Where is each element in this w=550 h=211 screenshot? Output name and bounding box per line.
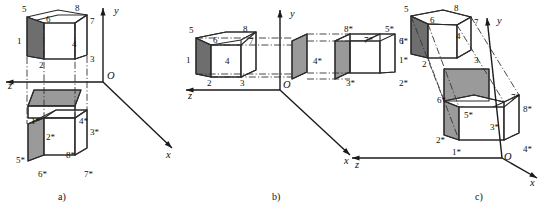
panels-root: yzxO568714231*4*2*3*5*8*6*7*a)yzxO568714… xyxy=(6,3,537,203)
vertex-label-3: 3 xyxy=(90,54,95,64)
origin-label: O xyxy=(107,70,115,81)
panel-caption-a: a) xyxy=(58,191,66,203)
vertex-label-3-star: 3* xyxy=(346,78,356,88)
vertex-label-7: 7 xyxy=(249,36,254,46)
vertex-label-5: 5 xyxy=(22,4,27,14)
vertex-label-3-star: 3* xyxy=(490,122,500,132)
vertex-label-2: 2 xyxy=(422,59,427,69)
vertex-label-6-star: 6* xyxy=(38,169,48,179)
vertex-label-7: 7 xyxy=(474,17,479,27)
axis-label-y: y xyxy=(496,15,502,26)
vertex-label-1: 1 xyxy=(186,55,191,65)
panel-a: yzxO568714231*4*2*3*5*8*6*7*a) xyxy=(6,3,172,203)
axis-label-y: y xyxy=(113,5,119,16)
vertex-label-8-star: 8* xyxy=(344,24,354,34)
vertex-label-1-star: 1* xyxy=(31,116,41,126)
axis-label-x: x xyxy=(529,177,535,188)
axis-x xyxy=(280,90,350,155)
vertex-label-4: 4 xyxy=(456,31,461,41)
vertex-label-8-star: 8* xyxy=(66,150,76,160)
panel-c: yzxO568714236*7*5*8*3*2*1*4*c) xyxy=(352,3,537,203)
vertex-label-2: 2 xyxy=(207,78,212,88)
vertex-label-4-star: 4* xyxy=(79,116,89,126)
origin-label: O xyxy=(283,79,291,90)
vertex-label-1: 1 xyxy=(400,36,405,46)
axis-arrow-y xyxy=(277,10,282,18)
vertex-label-4: 4 xyxy=(225,56,230,66)
vertex-label-6: 6 xyxy=(46,14,51,24)
vertex-label-3: 3 xyxy=(240,78,245,88)
front-face-box-star xyxy=(350,41,380,73)
figure-canvas: yzxO568714231*4*2*3*5*8*6*7*a)yzxO568714… xyxy=(0,0,550,211)
front-face-box xyxy=(428,24,457,58)
vertex-label-3-star: 3* xyxy=(90,127,100,137)
vertex-label-4: 4 xyxy=(72,39,77,49)
vertex-label-5: 5 xyxy=(404,4,409,14)
vertex-label-3: 3 xyxy=(474,55,479,65)
vertex-label-7: 7 xyxy=(90,16,95,26)
vertex-label-6: 6 xyxy=(213,35,218,45)
mirror-plane-face xyxy=(28,90,81,106)
axis-label-z: z xyxy=(187,90,192,101)
vertex-label-7-star: 7* xyxy=(84,169,94,179)
origin-label: O xyxy=(504,151,512,162)
axis-x xyxy=(103,82,172,148)
axis-label-y: y xyxy=(289,8,295,19)
front-face-upper-box xyxy=(44,23,75,59)
mirror-plane-strip xyxy=(292,34,307,79)
axis-label-z: z xyxy=(7,80,12,91)
vertex-label-8: 8 xyxy=(243,24,248,34)
vertex-label-5: 5 xyxy=(189,25,194,35)
axis-arrow-y xyxy=(100,8,105,16)
vertex-label-1-star: 1* xyxy=(452,147,462,157)
vertex-label-2-star: 2* xyxy=(46,132,56,142)
vertex-label-8: 8 xyxy=(454,3,459,13)
vertex-label-2: 2 xyxy=(39,60,44,70)
vertex-label-4-star: 4* xyxy=(313,56,323,66)
vertex-label-8: 8 xyxy=(75,3,80,13)
vertex-label-7-star: 7* xyxy=(511,92,521,102)
vertex-label-1-star: 1* xyxy=(399,55,409,65)
vertex-label-1: 1 xyxy=(17,36,22,46)
vertex-label-2-star: 2* xyxy=(436,135,446,145)
panel-caption-b: b) xyxy=(272,191,280,203)
vertex-label-5-star: 5* xyxy=(464,110,474,120)
axis-label-x: x xyxy=(343,155,349,166)
axis-label-x: x xyxy=(165,149,171,160)
vertex-label-7-star: 7* xyxy=(364,35,374,45)
vertex-label-4-star: 4* xyxy=(523,144,533,154)
vertex-label-6: 6 xyxy=(430,15,435,25)
panel-b: yzxO568714234*8*7*5*6*1*3*2*b) xyxy=(186,8,409,203)
vertex-label-5-star: 5* xyxy=(16,155,26,165)
panel-caption-c: c) xyxy=(475,191,483,203)
vertex-label-2-star: 2* xyxy=(399,78,409,88)
left-face-upper-box xyxy=(27,17,44,59)
vertex-label-5-star: 5* xyxy=(385,24,395,34)
vertex-label-8-star: 8* xyxy=(523,104,533,114)
vertex-label-6-star: 6* xyxy=(437,95,447,105)
axis-label-z: z xyxy=(354,159,359,170)
